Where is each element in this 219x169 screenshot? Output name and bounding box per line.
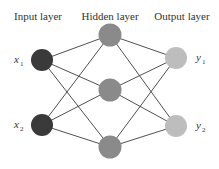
hidden-node-2 — [99, 79, 122, 102]
input-label-1: x 1 — [13, 53, 24, 68]
hidden-node-1 — [99, 24, 122, 47]
output-node-2 — [165, 115, 187, 137]
output-layer-title: Output layer — [154, 10, 210, 22]
hidden-node-3 — [99, 136, 122, 159]
input-label-2: x 2 — [13, 118, 24, 133]
svg-text:2: 2 — [202, 126, 206, 134]
hidden-layer-title: Hidden layer — [81, 10, 138, 22]
input-layer-title: Input layer — [14, 10, 62, 22]
output-node-1 — [165, 47, 187, 69]
svg-text:x: x — [13, 53, 19, 65]
input-node-2 — [31, 114, 53, 136]
output-label-1: y 1 — [195, 51, 206, 66]
svg-text:1: 1 — [20, 60, 24, 68]
svg-text:x: x — [13, 118, 19, 130]
output-label-2: y 2 — [195, 119, 206, 134]
svg-text:y: y — [195, 51, 201, 63]
svg-text:1: 1 — [202, 58, 206, 66]
svg-text:y: y — [195, 119, 201, 131]
svg-text:2: 2 — [20, 125, 24, 133]
input-node-1 — [31, 49, 53, 71]
neural-network-diagram: Input layer Hidden layer Output layer x … — [0, 0, 219, 169]
